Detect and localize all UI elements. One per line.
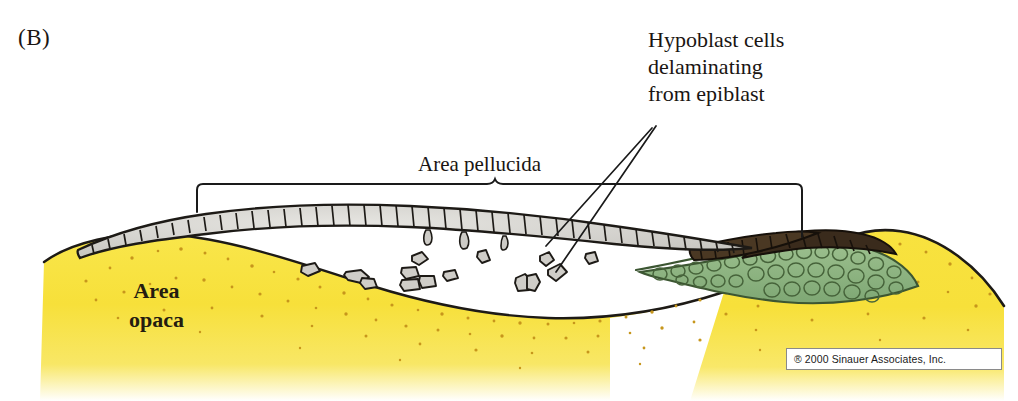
diagram-svg [0,0,1018,401]
area-pellucida-label: Area pellucida [418,152,541,177]
copyright-notice: ® 2000 Sinauer Associates, Inc. [786,348,1002,370]
figure-panel-b: (B) Hypoblast cells delaminating from ep… [0,0,1018,401]
panel-label: (B) [18,25,50,51]
callout-leader-lines [546,126,656,272]
hypoblast-callout-label: Hypoblast cells delaminating from epibla… [648,27,784,107]
area-opaca-label: Area opaca [129,277,184,334]
